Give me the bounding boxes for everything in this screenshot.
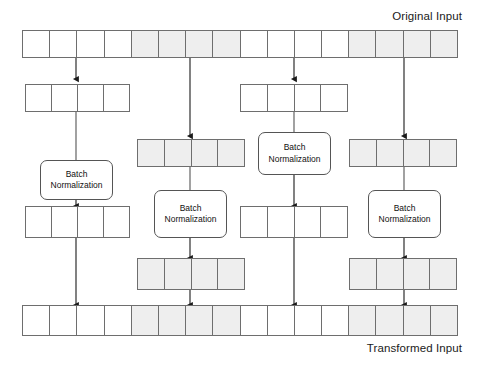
cell [23, 306, 50, 335]
cell [104, 85, 129, 111]
group4-input-slice [349, 139, 457, 167]
cell [241, 31, 268, 57]
group1-output-slice [25, 206, 130, 238]
cell [349, 31, 376, 57]
cell [165, 259, 192, 289]
cell [105, 306, 132, 335]
bn2-line1: Batch [180, 203, 202, 214]
cell [213, 31, 240, 57]
cell [404, 140, 431, 166]
cell [78, 207, 104, 237]
batch-normalization-block-1[interactable]: Batch Normalization [40, 160, 113, 200]
cell [349, 306, 376, 335]
cell [295, 207, 322, 237]
bn4-line2: Normalization [379, 214, 431, 225]
cell [23, 31, 50, 57]
cell [104, 207, 129, 237]
batch-normalization-block-2[interactable]: Batch Normalization [154, 190, 227, 238]
group2-input-slice [137, 139, 245, 167]
cell [52, 207, 78, 237]
cell [404, 31, 431, 57]
cell [376, 306, 403, 335]
cell [350, 259, 377, 289]
cell [138, 259, 165, 289]
cell [376, 31, 403, 57]
bn4-line1: Batch [394, 203, 416, 214]
bn3-line1: Batch [284, 142, 306, 153]
cell [268, 207, 295, 237]
cell [50, 306, 77, 335]
group3-output-slice [240, 206, 348, 238]
cell [213, 306, 240, 335]
batch-normalization-block-3[interactable]: Batch Normalization [258, 132, 331, 175]
cell [105, 31, 132, 57]
cell [186, 31, 213, 57]
cell [322, 306, 349, 335]
cell [26, 207, 52, 237]
transformed-input-row [22, 305, 458, 336]
original-input-label: Original Input [392, 10, 462, 22]
cell [295, 306, 322, 335]
cell [192, 140, 219, 166]
cell [132, 31, 159, 57]
cell [241, 85, 268, 111]
cell [186, 306, 213, 335]
cell [321, 85, 347, 111]
bn1-line1: Batch [66, 169, 88, 180]
cell [268, 85, 295, 111]
cell [430, 140, 456, 166]
cell [268, 31, 295, 57]
cell [268, 306, 295, 335]
cell [404, 306, 431, 335]
cell [159, 31, 186, 57]
cell [431, 306, 457, 335]
cell [77, 31, 104, 57]
cell [26, 85, 52, 111]
bn1-line2: Normalization [51, 180, 103, 191]
cell [350, 140, 377, 166]
cell [165, 140, 192, 166]
cell [77, 306, 104, 335]
cell [192, 259, 219, 289]
group3-input-slice [240, 84, 348, 112]
cell [295, 31, 322, 57]
batch-normalization-diagram: Original Input Transformed Input Batch N… [0, 0, 480, 369]
cell [322, 31, 349, 57]
transformed-input-label: Transformed Input [367, 342, 462, 354]
cell [241, 306, 268, 335]
cell [377, 140, 404, 166]
group4-output-slice [349, 258, 457, 290]
cell [159, 306, 186, 335]
cell [430, 259, 456, 289]
cell [241, 207, 268, 237]
cell [321, 207, 347, 237]
cell [431, 31, 457, 57]
bn3-line2: Normalization [269, 154, 321, 165]
group2-output-slice [137, 258, 245, 290]
cell [377, 259, 404, 289]
cell [218, 140, 244, 166]
cell [295, 85, 322, 111]
bn2-line2: Normalization [165, 214, 217, 225]
cell [218, 259, 244, 289]
batch-normalization-block-4[interactable]: Batch Normalization [368, 190, 441, 238]
cell [404, 259, 431, 289]
cell [132, 306, 159, 335]
cell [138, 140, 165, 166]
original-input-row [22, 30, 458, 58]
cell [50, 31, 77, 57]
cell [52, 85, 78, 111]
group1-input-slice [25, 84, 130, 112]
cell [78, 85, 104, 111]
